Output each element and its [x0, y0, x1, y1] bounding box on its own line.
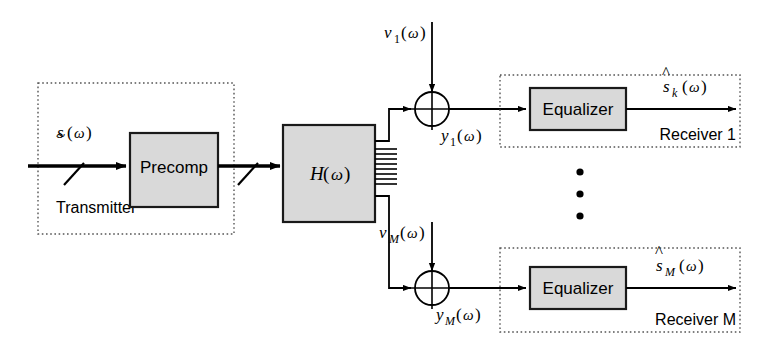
- channel-to-summer-wire-top: [375, 109, 411, 141]
- s-tilde-base: s: [57, 123, 64, 142]
- ellipsis-dot: [576, 168, 583, 175]
- s-tilde-paren-close: ): [86, 123, 92, 142]
- channel-paren-open: (: [323, 163, 329, 185]
- noise-bottom-base: ν: [379, 223, 387, 242]
- summer-bottom: [411, 267, 453, 309]
- received-label-bottom: y M ( ω ): [434, 305, 481, 328]
- equalizer-label-top: Equalizer: [543, 100, 614, 119]
- output-label-top: ^ s k ( ω ): [662, 63, 707, 100]
- channel-omega: ω: [331, 165, 343, 184]
- noise-top-paren-open: (: [401, 23, 407, 42]
- output-bottom-paren-open: (: [679, 256, 685, 275]
- received-top-paren-close: ): [476, 126, 482, 145]
- noise-label-top: ν 1 ( ω ): [384, 23, 426, 46]
- noise-top-paren-close: ): [420, 23, 426, 42]
- output-bottom-omega: ω: [686, 258, 697, 274]
- vertical-ellipsis: [576, 168, 583, 219]
- noise-bottom-paren-close: ): [419, 223, 425, 242]
- output-bottom-sub: M: [664, 265, 676, 279]
- s-tilde-paren-open: (: [67, 123, 73, 142]
- equalizer-label-bottom: Equalizer: [543, 279, 614, 298]
- ellipsis-dot: [576, 190, 583, 197]
- channel-bus-stubs: [375, 149, 397, 184]
- noise-bottom-paren-open: (: [400, 223, 406, 242]
- output-top-omega: ω: [689, 79, 700, 95]
- noise-bottom-sub: M: [388, 232, 400, 246]
- received-bottom-base: y: [434, 305, 444, 324]
- output-label-bottom: ^ s M ( ω ): [655, 242, 704, 279]
- receiver-m-group-label: Receiver M: [655, 311, 736, 328]
- received-bottom-paren-open: (: [456, 305, 462, 324]
- received-top-omega: ω: [464, 128, 475, 144]
- block-diagram: Transmitter ~ s ( ω ) Precomp H ( ω ): [0, 0, 772, 354]
- output-top-paren-close: ): [701, 77, 707, 96]
- received-top-base: y: [439, 126, 449, 145]
- channel-paren-close: ): [344, 163, 350, 185]
- noise-label-bottom: ν M ( ω ): [379, 223, 425, 246]
- diagram-canvas: Transmitter ~ s ( ω ) Precomp H ( ω ): [0, 0, 772, 354]
- output-bottom-paren-close: ): [698, 256, 704, 275]
- received-bottom-sub: M: [444, 314, 456, 328]
- output-top-base: s: [663, 77, 670, 96]
- precomp-block-label: Precomp: [140, 158, 208, 177]
- receiver-1-group-label: Receiver 1: [660, 126, 737, 143]
- noise-top-omega: ω: [408, 25, 419, 41]
- s-tilde-omega: ω: [74, 125, 85, 141]
- noise-top-base: ν: [384, 23, 392, 42]
- transmitter-group-label: Transmitter: [56, 199, 137, 216]
- output-bottom-base: s: [656, 256, 663, 275]
- received-bottom-paren-close: ): [475, 305, 481, 324]
- signal-label-s-tilde: ~ s ( ω ): [56, 123, 92, 145]
- ellipsis-dot: [576, 212, 583, 219]
- noise-bottom-omega: ω: [407, 225, 418, 241]
- received-label-top: y 1 ( ω ): [439, 126, 482, 149]
- received-bottom-omega: ω: [463, 307, 474, 323]
- summer-top: [411, 88, 453, 130]
- noise-top-sub: 1: [394, 32, 400, 46]
- output-top-sub: k: [672, 86, 678, 100]
- received-top-paren-open: (: [457, 126, 463, 145]
- output-top-paren-open: (: [682, 77, 688, 96]
- received-top-sub: 1: [450, 135, 456, 149]
